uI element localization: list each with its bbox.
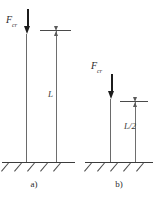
ground-hatch-a-1: [1, 163, 9, 172]
caption-a: a): [24, 180, 44, 189]
caption-b: b): [109, 180, 129, 189]
ground-hatch-b-4: [123, 163, 131, 172]
ground-hatch-a-5: [53, 163, 61, 172]
column-b: [110, 99, 111, 163]
dimension-label-a: L: [48, 90, 53, 99]
ground-hatch-b-1: [84, 163, 92, 172]
dimension-line-a-shaft: [56, 31, 57, 162]
dimension-arrow-b-bottom: [133, 97, 137, 102]
load-arrow-b-head: [108, 91, 114, 99]
column-a: [26, 34, 27, 163]
ground-hatch-a-3: [27, 163, 35, 172]
load-arrow-a-head: [24, 26, 30, 34]
dimension-arrow-a-top: [54, 31, 58, 36]
ground-hatch-b-2: [97, 163, 105, 172]
ground-hatch-b-3: [110, 163, 118, 172]
force-label-a: Fcr: [6, 10, 17, 28]
dimension-arrow-b-top: [133, 102, 137, 107]
force-label-b: Fcr: [91, 56, 102, 74]
load-arrow-b-shaft: [111, 74, 113, 92]
ground-line-a: [2, 162, 75, 163]
ground-hatch-a-4: [40, 163, 48, 172]
buckling-column-figure: Fcr L a) Fcr: [0, 0, 155, 197]
load-arrow-a-shaft: [27, 9, 29, 27]
force-label-a-subscript: cr: [12, 22, 17, 28]
ground-hatch-b-5: [136, 163, 144, 172]
dimension-label-b: L/2: [124, 122, 136, 131]
ground-hatch-a-2: [14, 163, 22, 172]
dimension-line-b-shaft: [135, 102, 136, 162]
dimension-arrow-a-bottom: [54, 26, 58, 31]
force-label-b-subscript: cr: [97, 68, 102, 74]
